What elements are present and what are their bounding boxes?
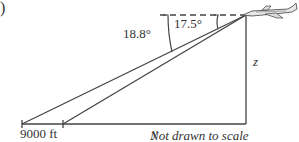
distance-label: 9000 ft <box>20 126 58 141</box>
part-label: ) <box>0 0 5 17</box>
sight-line-near <box>63 15 246 124</box>
scale-note: Not drawn to scale <box>149 128 249 142</box>
airplane-icon <box>243 3 297 18</box>
angle-label-outer: 18.8° <box>123 26 151 41</box>
trig-diagram: ) 18.8° 17.5° z y 9000 ft No <box>0 0 299 142</box>
angle-label-inner: 17.5° <box>174 16 202 31</box>
angle-marker-inner <box>214 15 218 29</box>
label-z: z <box>252 54 258 69</box>
angle-marker-outer <box>163 15 172 52</box>
